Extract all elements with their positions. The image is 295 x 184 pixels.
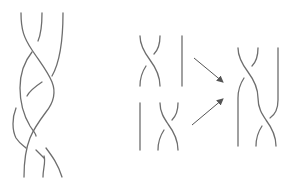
- sigma-1-braid: [140, 36, 182, 86]
- product-braid: [238, 48, 278, 146]
- sigma-2-braid: [140, 103, 178, 150]
- arrow-down-right: [194, 58, 223, 82]
- arrow-up-right: [192, 99, 223, 125]
- long-braid: [13, 13, 63, 177]
- arrows: [192, 58, 223, 125]
